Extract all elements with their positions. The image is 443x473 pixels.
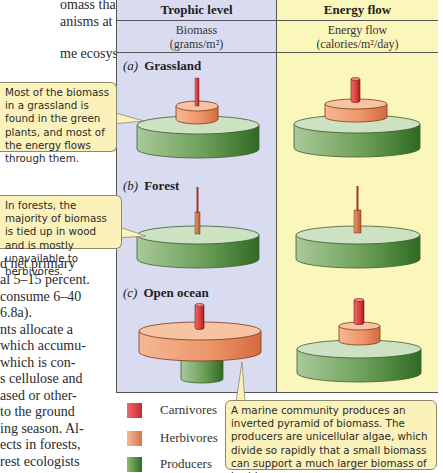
- carnivores-rod: [354, 299, 364, 325]
- carnivores-rod: [357, 186, 359, 211]
- legend-item-carnivores: Carnivores: [127, 402, 217, 418]
- grassland-callout: Most of the biomass in a grassland is fo…: [0, 82, 117, 152]
- legend-label: Carnivores: [160, 402, 217, 418]
- legend-label: Herbivores: [160, 430, 218, 446]
- ocean-energy-pyramid: [297, 299, 421, 383]
- herbivores-disk: [339, 322, 380, 345]
- carnivores-rod: [351, 78, 360, 103]
- producers-disk: [297, 340, 421, 382]
- carnivores-swatch: [127, 403, 142, 418]
- herbivores-swatch: [127, 431, 142, 446]
- herbivores-rod: [354, 210, 361, 233]
- grassland-biomass-pyramid: [137, 78, 259, 158]
- forest-callout: In forests, the majority of biomass is t…: [0, 195, 122, 249]
- carnivores-rod: [197, 187, 199, 213]
- legend-item-herbivores: Herbivores: [127, 430, 218, 446]
- ocean-callout: A marine community produces an inverted …: [225, 400, 437, 470]
- forest-biomass-pyramid: [137, 187, 259, 268]
- producers-swatch: [127, 457, 142, 472]
- forest-energy-pyramid: [296, 186, 420, 268]
- carnivores-rod: [195, 304, 204, 330]
- legend-label: Producers: [160, 456, 212, 472]
- carnivores-rod: [195, 78, 199, 106]
- producers-disk: [181, 358, 223, 383]
- herbivores-rod: [195, 212, 200, 234]
- grassland-energy-pyramid: [294, 78, 420, 158]
- legend-item-producers: Producers: [127, 456, 212, 472]
